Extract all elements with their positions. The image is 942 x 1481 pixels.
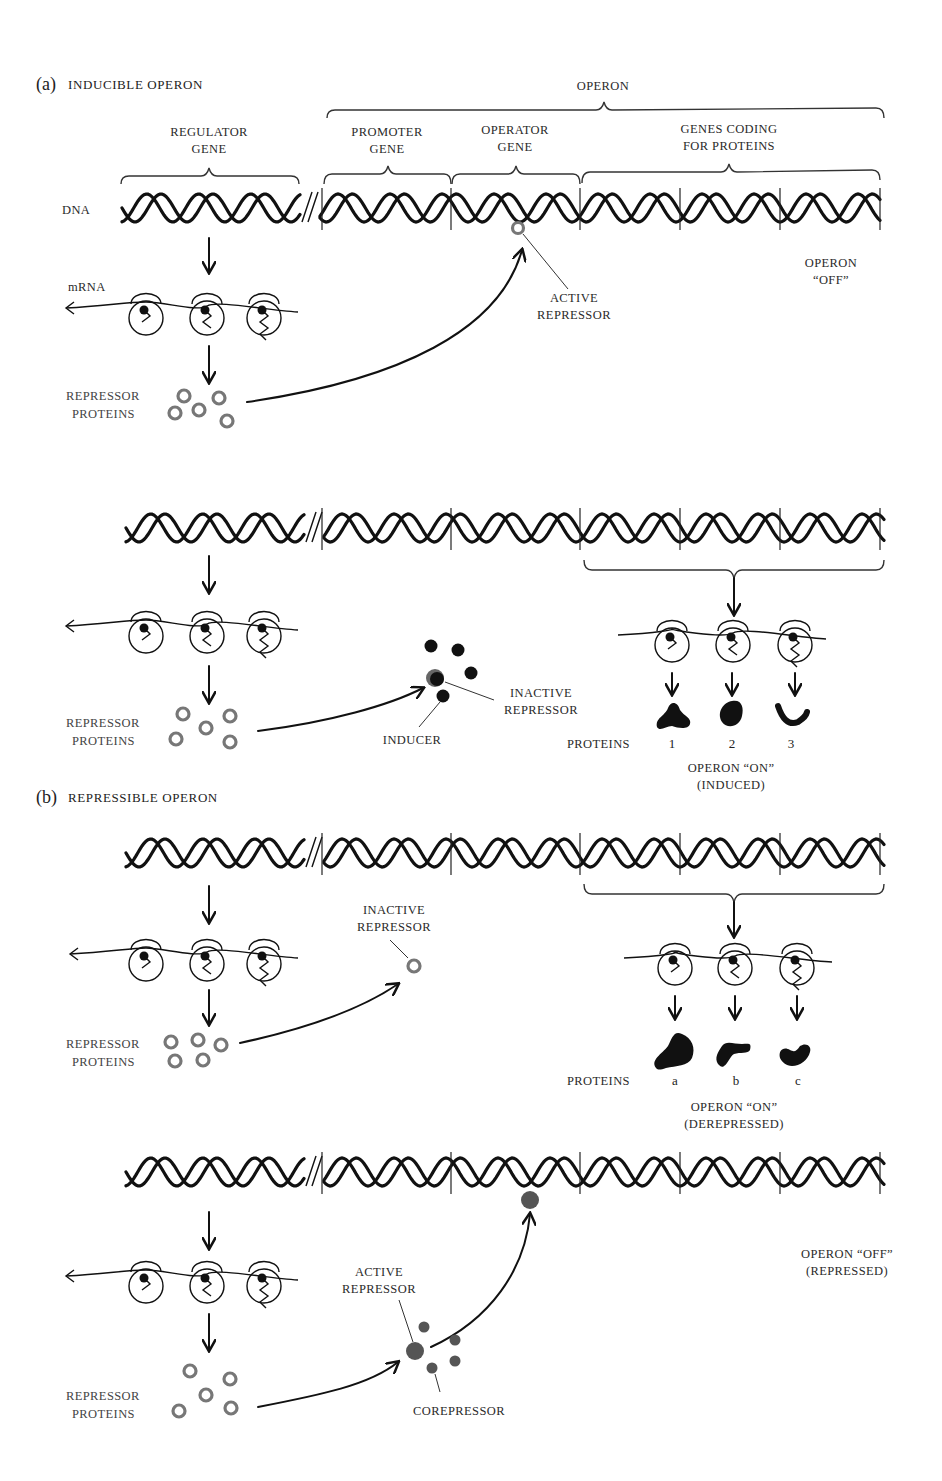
repressor-ring [173, 1405, 185, 1417]
section-b-letter: (b) [36, 787, 57, 808]
promoter-gene-label-1: PROMOTER [351, 125, 423, 139]
repressor-ring [169, 1055, 181, 1067]
repressor-ring [192, 1034, 204, 1046]
active-repressor-complex [406, 1342, 424, 1360]
repressor-proteins-a-off [169, 390, 233, 427]
repressor-to-operator-arrow [431, 1214, 530, 1347]
repressor-proteins-label-1: REPRESSOR [66, 716, 140, 730]
inactive-repressor-leader [445, 682, 494, 700]
ribosome-small-subunit [780, 621, 810, 632]
promoter-gene-label-2: GENE [370, 142, 405, 156]
repressor-ring [193, 404, 205, 416]
protein-b-shape [716, 1043, 750, 1067]
section-a-title: INDUCIBLE OPERON [68, 77, 203, 92]
induced-proteins: PROTEINS 1 2 3 OPERON “ON” (INDUCED) [567, 673, 807, 792]
inducer-dot [452, 644, 465, 657]
operon-off-label-2: “OFF” [813, 273, 849, 287]
ribosome-small-subunit [718, 621, 748, 632]
protein-id-2: 2 [729, 736, 736, 751]
operator-gene-label-1: OPERATOR [481, 123, 549, 137]
mrna-ribosomes-b-repressed [66, 1262, 298, 1309]
repressor-ring [224, 736, 236, 748]
genes-coding-label-2: FOR PROTEINS [683, 139, 775, 153]
repressor-to-inducer-arrow [258, 688, 423, 731]
repressor-ring [225, 1402, 237, 1414]
inducer-dot [425, 640, 438, 653]
protein-id-1: 1 [669, 736, 676, 751]
inactive-repressor-label-2: REPRESSOR [357, 920, 431, 934]
ribosome-small-subunit [192, 1262, 222, 1273]
inactive-repressor-label-1: INACTIVE [363, 903, 425, 917]
protein-id-c: c [795, 1073, 801, 1088]
operon-off-repressed-label-2: (REPRESSED) [806, 1264, 888, 1278]
ribosome-small-subunit [720, 944, 750, 955]
protein-id-a: a [672, 1073, 678, 1088]
corepressor-molecules [406, 1322, 461, 1374]
derepressed-proteins: PROTEINS a b c OPERON “ON” (DEREPRESSED) [567, 996, 810, 1131]
repressor-ring [221, 415, 233, 427]
section-b-header: (b) REPRESSIBLE OPERON [36, 787, 218, 808]
repressor-proteins-label-2: PROTEINS [72, 1407, 135, 1421]
gene-braces-a: OPERON REGULATOR GENE PROMOTER GENE OPER… [121, 79, 884, 184]
repressor-ring [169, 407, 181, 419]
repressor-proteins-b-derepressed [165, 1034, 227, 1067]
repressor-ring [165, 1036, 177, 1048]
operon-off-repressed-label-1: OPERON “OFF” [801, 1247, 893, 1261]
mrna-strand [624, 952, 832, 962]
operon-on-derepressed-label-2: (DEREPRESSED) [684, 1117, 784, 1131]
inducer-label: INDUCER [383, 733, 442, 747]
proteins-label: PROTEINS [567, 737, 630, 751]
dna-break-mark [306, 1156, 316, 1186]
section-a-header: (a) INDUCIBLE OPERON [36, 74, 203, 95]
operon-brace [327, 102, 884, 118]
section-a-letter: (a) [36, 74, 56, 95]
ribosome-small-subunit [249, 940, 279, 951]
inducer-leader [419, 702, 440, 727]
operon-mrna-ribosomes-b-derepressed [624, 944, 832, 991]
operon-on-induced-label-2: (INDUCED) [697, 778, 765, 792]
active-repressor-label-1: ACTIVE [355, 1265, 403, 1279]
repressor-ring [177, 708, 189, 720]
dna-break-mark [306, 512, 316, 542]
genes-coding-brace [582, 164, 880, 183]
dna-strand-a-on [126, 508, 884, 550]
dna-break-mark [306, 837, 316, 867]
genes-coding-label-1: GENES CODING [681, 122, 778, 136]
operon-on-induced-label-1: OPERON “ON” [688, 761, 775, 775]
repressor-proteins-a-on [170, 708, 236, 748]
mrna-ribosomes-b-derepressed [70, 940, 298, 987]
repressor-to-corepressor-arrow [258, 1362, 398, 1407]
inactive-repressor-label-2: REPRESSOR [504, 703, 578, 717]
active-repressor-leader [523, 234, 568, 289]
repressor-ring [213, 392, 225, 404]
coding-genes-brace-b [584, 884, 884, 902]
repressor-ring [215, 1039, 227, 1051]
repressor-proteins-label-2: PROTEINS [72, 734, 135, 748]
repressor-proteins-label-1: REPRESSOR [66, 1037, 140, 1051]
section-b-title: REPRESSIBLE OPERON [68, 790, 218, 805]
corepressor-dot [450, 1335, 461, 1346]
active-repressor-label-2: REPRESSOR [342, 1282, 416, 1296]
ribosome-small-subunit [249, 294, 279, 305]
repressor-ring [200, 722, 212, 734]
inducer-molecules [425, 640, 478, 703]
ribosome-small-subunit [249, 1262, 279, 1273]
ribosome-small-subunit [192, 294, 222, 305]
mrna-ribosomes-a-on [66, 612, 298, 659]
ribosome-small-subunit [249, 612, 279, 623]
inactive-repressor-leader [390, 940, 408, 958]
dna-strand-b-repressed [126, 1152, 884, 1194]
inducer-dot [437, 690, 450, 703]
inactive-repressor-label-1: INACTIVE [510, 686, 572, 700]
ribosome-small-subunit [192, 940, 222, 951]
repressor-ring [224, 1373, 236, 1385]
repressor-ring [178, 390, 190, 402]
inducer-bound [430, 672, 444, 686]
protein-id-b: b [733, 1073, 740, 1088]
operon-diagram: (a) INDUCIBLE OPERON OPERON REGULATOR GE… [0, 0, 942, 1481]
repressor-ring [200, 1389, 212, 1401]
corepressor-dot [427, 1363, 438, 1374]
active-repressor-bound [521, 1191, 539, 1209]
dna-strand-a-off [122, 188, 880, 230]
active-repressor-label-2: REPRESSOR [537, 308, 611, 322]
